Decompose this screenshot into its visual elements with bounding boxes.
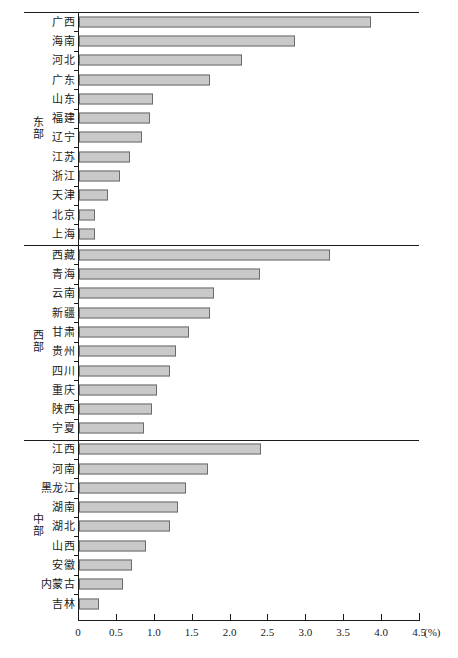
- bar-row: 山西: [0, 536, 458, 555]
- bar-row: 新疆: [0, 303, 458, 322]
- x-axis-unit-label: (%): [424, 625, 441, 639]
- bar-row: 海南: [0, 31, 458, 50]
- x-axis-tick-label: 0: [75, 625, 81, 639]
- category-label: 黑龙江: [41, 482, 76, 493]
- x-axis-tick: [419, 614, 420, 620]
- bar: [79, 269, 260, 280]
- category-label: 新疆: [52, 307, 75, 318]
- x-axis-tick-label: 2.5: [261, 625, 275, 639]
- bar-row: 浙江: [0, 166, 458, 185]
- bar: [79, 521, 170, 532]
- bar-row: 云南: [0, 284, 458, 303]
- group-separator: [24, 440, 419, 441]
- x-axis-tick-label: 1.0: [147, 625, 161, 639]
- bar: [79, 35, 295, 46]
- y-axis-tick: [74, 498, 78, 499]
- category-label: 云南: [52, 288, 75, 299]
- x-axis-tick: [305, 614, 306, 620]
- category-label: 河北: [52, 55, 75, 66]
- x-axis-tick-label: 3.0: [298, 625, 312, 639]
- region-label-char: 西: [30, 329, 46, 341]
- bar-row: 青海: [0, 264, 458, 283]
- horizontal-bar-chart: 广西海南河北广东山东福建辽宁江苏浙江天津北京上海西藏青海云南新疆甘肃贵州四川重庆…: [0, 0, 458, 658]
- category-label: 湖北: [52, 521, 75, 532]
- bar-row: 甘肃: [0, 322, 458, 341]
- bar-row: 湖南: [0, 498, 458, 517]
- category-label: 甘肃: [52, 326, 75, 337]
- category-label: 内蒙古: [41, 579, 76, 590]
- x-axis-tick: [78, 614, 79, 620]
- y-axis-tick: [74, 31, 78, 32]
- group-separator: [24, 12, 419, 13]
- bar: [79, 190, 108, 201]
- bar: [79, 326, 189, 337]
- y-axis-tick: [74, 109, 78, 110]
- y-axis-tick: [74, 361, 78, 362]
- y-axis-tick: [74, 205, 78, 206]
- bar-row: 江苏: [0, 147, 458, 166]
- bar-row: 四川: [0, 361, 458, 380]
- y-axis-tick: [74, 224, 78, 225]
- y-axis-tick: [74, 459, 78, 460]
- region-label-char: 部: [30, 128, 46, 140]
- bar: [79, 463, 208, 474]
- bar: [79, 482, 186, 493]
- bar-row: 福建: [0, 109, 458, 128]
- region-label-char: 部: [30, 525, 46, 537]
- bar: [79, 16, 371, 27]
- y-axis-tick: [74, 400, 78, 401]
- y-axis-tick: [74, 342, 78, 343]
- bar: [79, 404, 152, 415]
- bar-row: 天津: [0, 186, 458, 205]
- bar-row: 辽宁: [0, 128, 458, 147]
- bar: [79, 598, 99, 609]
- category-label: 海南: [52, 35, 75, 46]
- y-axis-tick: [74, 89, 78, 90]
- category-label: 重庆: [52, 384, 75, 395]
- y-axis-tick: [74, 303, 78, 304]
- x-axis-line: [78, 620, 420, 621]
- bar: [79, 307, 210, 318]
- bar: [79, 171, 120, 182]
- bar: [79, 502, 178, 513]
- bar-row: 湖北: [0, 517, 458, 536]
- bar-row: 北京: [0, 205, 458, 224]
- region-label: 西部: [30, 329, 46, 353]
- category-label: 江苏: [52, 151, 75, 162]
- x-axis-tick-label: 2.0: [223, 625, 237, 639]
- bar: [79, 151, 130, 162]
- category-label: 广西: [52, 16, 75, 27]
- bar: [79, 228, 95, 239]
- category-label: 山东: [52, 93, 75, 104]
- x-axis-tick: [154, 614, 155, 620]
- bar: [79, 74, 210, 85]
- bar-row: 上海: [0, 224, 458, 243]
- bar: [79, 579, 123, 590]
- category-label: 青海: [52, 269, 75, 280]
- category-label: 河南: [52, 463, 75, 474]
- x-axis-tick: [267, 614, 268, 620]
- x-axis-tick: [381, 614, 382, 620]
- bar: [79, 113, 150, 124]
- category-label: 四川: [52, 365, 75, 376]
- y-axis-tick: [74, 517, 78, 518]
- y-axis-tick: [74, 478, 78, 479]
- category-label: 北京: [52, 209, 75, 220]
- region-label-char: 部: [30, 341, 46, 353]
- category-label: 宁夏: [52, 423, 75, 434]
- y-axis-tick: [74, 322, 78, 323]
- x-axis-tick: [343, 614, 344, 620]
- bar: [79, 209, 95, 220]
- bar: [79, 346, 176, 357]
- x-axis-tick: [192, 614, 193, 620]
- bar: [79, 365, 170, 376]
- y-axis-tick: [74, 70, 78, 71]
- bar: [79, 249, 330, 260]
- y-axis-tick: [74, 575, 78, 576]
- category-label: 福建: [52, 113, 75, 124]
- bar-row: 西藏: [0, 245, 458, 264]
- bar-row: 河北: [0, 51, 458, 70]
- bar: [79, 423, 144, 434]
- bar-row: 宁夏: [0, 419, 458, 438]
- bar: [79, 444, 261, 455]
